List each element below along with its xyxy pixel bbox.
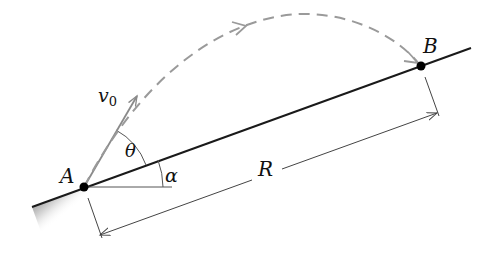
label-point-b: B xyxy=(422,34,438,58)
label-velocity-v: v xyxy=(98,84,109,106)
label-range: R xyxy=(257,157,273,181)
label-velocity-subscript: 0 xyxy=(109,94,117,109)
label-theta: θ xyxy=(125,140,136,161)
label-point-a: A xyxy=(58,164,74,188)
trajectory-direction-arrow-end xyxy=(404,52,418,63)
ground-shading xyxy=(32,48,480,231)
incline-surface xyxy=(32,48,471,207)
point-b xyxy=(417,62,426,71)
point-a xyxy=(80,183,89,192)
label-alpha: α xyxy=(165,164,178,186)
projectile-incline-diagram: A B v0 θ α R xyxy=(0,0,501,253)
label-velocity: v0 xyxy=(98,84,117,109)
